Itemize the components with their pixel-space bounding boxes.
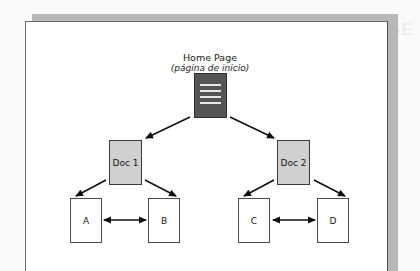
node-doc1: Doc 1	[109, 140, 142, 185]
home-page-subtitle: (página de inicio)	[150, 63, 270, 73]
node-label: A	[83, 216, 89, 226]
node-d: D	[317, 198, 349, 243]
page-scan: ARCHIVOS EN ORDEN EN QUE SE SIGUIEN LOS …	[0, 0, 420, 271]
document-lines-icon	[200, 90, 221, 92]
document-lines-icon	[200, 96, 221, 98]
node-label: C	[251, 216, 257, 226]
node-label: B	[161, 216, 167, 226]
home-page-node	[194, 73, 227, 118]
node-b: B	[148, 198, 180, 243]
home-page-label: Home Page (página de inicio)	[150, 53, 270, 73]
document-lines-icon	[200, 84, 221, 86]
node-a: A	[70, 198, 102, 243]
node-label: D	[330, 216, 337, 226]
home-page-title: Home Page	[150, 53, 270, 63]
node-c: C	[238, 198, 270, 243]
node-doc2: Doc 2	[277, 140, 310, 185]
node-label: Doc 1	[113, 158, 139, 168]
node-label: Doc 2	[281, 158, 307, 168]
document-lines-icon	[200, 102, 221, 104]
